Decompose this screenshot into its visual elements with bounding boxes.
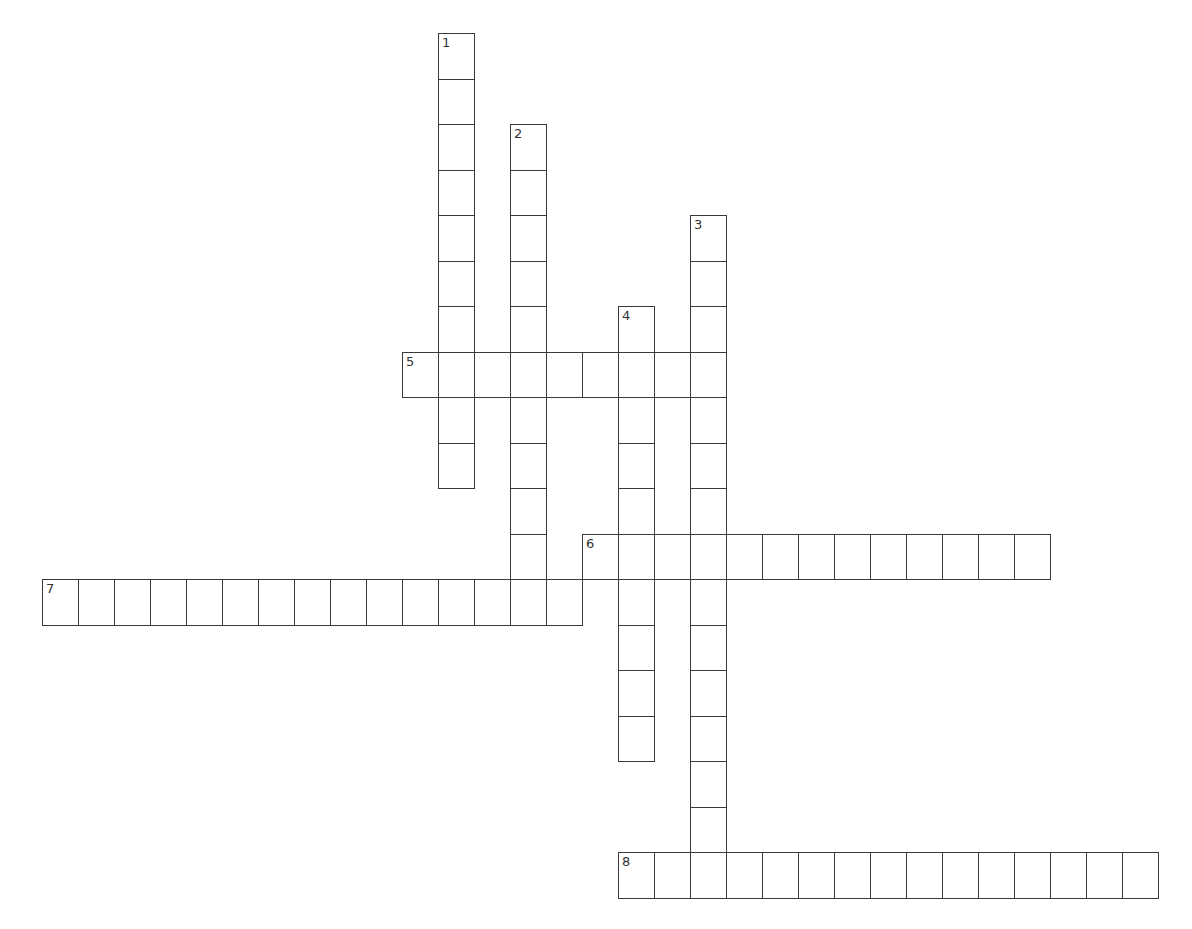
- crossword-cell[interactable]: [870, 852, 907, 899]
- crossword-cell[interactable]: [690, 625, 727, 672]
- crossword-cell[interactable]: [978, 852, 1015, 899]
- crossword-cell[interactable]: [438, 352, 475, 399]
- crossword-cell[interactable]: [690, 306, 727, 353]
- crossword-cell[interactable]: [582, 352, 619, 399]
- crossword-cell[interactable]: [834, 852, 871, 899]
- crossword-cell[interactable]: [546, 579, 583, 626]
- crossword-cell[interactable]: [618, 534, 655, 581]
- crossword-cell[interactable]: [618, 488, 655, 535]
- crossword-cell[interactable]: [186, 579, 223, 626]
- crossword-cell[interactable]: [510, 488, 547, 535]
- clue-number: 6: [586, 537, 594, 550]
- crossword-cell[interactable]: [618, 352, 655, 399]
- crossword-cell[interactable]: [510, 306, 547, 353]
- crossword-cell[interactable]: [618, 716, 655, 763]
- crossword-cell[interactable]: [978, 534, 1015, 581]
- crossword-cell[interactable]: [222, 579, 259, 626]
- crossword-cell[interactable]: [726, 534, 763, 581]
- crossword-cell[interactable]: [438, 261, 475, 308]
- crossword-cell[interactable]: [762, 534, 799, 581]
- crossword-cell[interactable]: [510, 397, 547, 444]
- crossword-cell[interactable]: [942, 852, 979, 899]
- crossword-cell[interactable]: [510, 443, 547, 490]
- crossword-cell[interactable]: [690, 261, 727, 308]
- crossword-cell[interactable]: [78, 579, 115, 626]
- crossword-cell[interactable]: [726, 852, 763, 899]
- crossword-cell[interactable]: [474, 352, 511, 399]
- crossword-cell[interactable]: [798, 534, 835, 581]
- crossword-grid: 12345678: [0, 0, 1192, 929]
- crossword-cell[interactable]: 7: [42, 579, 79, 626]
- clue-number: 2: [514, 127, 522, 140]
- crossword-cell[interactable]: 1: [438, 33, 475, 80]
- clue-number: 3: [694, 218, 702, 231]
- crossword-cell[interactable]: [510, 352, 547, 399]
- crossword-cell[interactable]: [690, 534, 727, 581]
- crossword-cell[interactable]: [438, 79, 475, 126]
- crossword-cell[interactable]: [834, 534, 871, 581]
- clue-number: 4: [622, 309, 630, 322]
- clue-number: 1: [442, 36, 450, 49]
- crossword-cell[interactable]: [618, 625, 655, 672]
- crossword-cell[interactable]: [690, 670, 727, 717]
- crossword-cell[interactable]: [438, 124, 475, 171]
- crossword-cell[interactable]: 2: [510, 124, 547, 171]
- crossword-cell[interactable]: [294, 579, 331, 626]
- clue-number: 7: [46, 582, 54, 595]
- crossword-cell[interactable]: [474, 579, 511, 626]
- crossword-cell[interactable]: [150, 579, 187, 626]
- crossword-cell[interactable]: [618, 397, 655, 444]
- crossword-cell[interactable]: [438, 215, 475, 262]
- crossword-cell[interactable]: [654, 852, 691, 899]
- crossword-cell[interactable]: [762, 852, 799, 899]
- clue-number: 5: [406, 355, 414, 368]
- crossword-cell[interactable]: [690, 579, 727, 626]
- crossword-cell[interactable]: [690, 488, 727, 535]
- crossword-cell[interactable]: [618, 670, 655, 717]
- crossword-cell[interactable]: [690, 443, 727, 490]
- crossword-cell[interactable]: [906, 852, 943, 899]
- clue-number: 8: [622, 855, 630, 868]
- crossword-cell[interactable]: 4: [618, 306, 655, 353]
- crossword-cell[interactable]: [438, 443, 475, 490]
- crossword-cell[interactable]: 8: [618, 852, 655, 899]
- crossword-cell[interactable]: [1050, 852, 1087, 899]
- crossword-cell[interactable]: [510, 534, 547, 581]
- crossword-cell[interactable]: [510, 261, 547, 308]
- crossword-cell[interactable]: [1014, 852, 1051, 899]
- crossword-cell[interactable]: [402, 579, 439, 626]
- crossword-cell[interactable]: [438, 579, 475, 626]
- crossword-cell[interactable]: [1014, 534, 1051, 581]
- crossword-cell[interactable]: [366, 579, 403, 626]
- crossword-cell[interactable]: [438, 306, 475, 353]
- crossword-cell[interactable]: [510, 579, 547, 626]
- crossword-cell[interactable]: [906, 534, 943, 581]
- crossword-cell[interactable]: 3: [690, 215, 727, 262]
- crossword-cell[interactable]: [330, 579, 367, 626]
- crossword-cell[interactable]: [690, 761, 727, 808]
- crossword-cell[interactable]: [618, 579, 655, 626]
- crossword-cell[interactable]: [258, 579, 295, 626]
- crossword-cell[interactable]: [510, 170, 547, 217]
- crossword-cell[interactable]: [654, 352, 691, 399]
- crossword-cell[interactable]: 5: [402, 352, 439, 399]
- crossword-cell[interactable]: [546, 352, 583, 399]
- crossword-cell[interactable]: [510, 215, 547, 262]
- crossword-cell[interactable]: [114, 579, 151, 626]
- crossword-cell[interactable]: [618, 443, 655, 490]
- crossword-cell[interactable]: [438, 170, 475, 217]
- crossword-cell[interactable]: [690, 716, 727, 763]
- crossword-cell[interactable]: [798, 852, 835, 899]
- crossword-cell[interactable]: [438, 397, 475, 444]
- crossword-cell[interactable]: [870, 534, 907, 581]
- crossword-cell[interactable]: [690, 352, 727, 399]
- crossword-cell[interactable]: 6: [582, 534, 619, 581]
- crossword-cell[interactable]: [942, 534, 979, 581]
- crossword-cell[interactable]: [690, 852, 727, 899]
- crossword-cell[interactable]: [1122, 852, 1159, 899]
- crossword-cell[interactable]: [690, 807, 727, 854]
- crossword-cell[interactable]: [1086, 852, 1123, 899]
- crossword-cell[interactable]: [690, 397, 727, 444]
- crossword-cell[interactable]: [654, 534, 691, 581]
